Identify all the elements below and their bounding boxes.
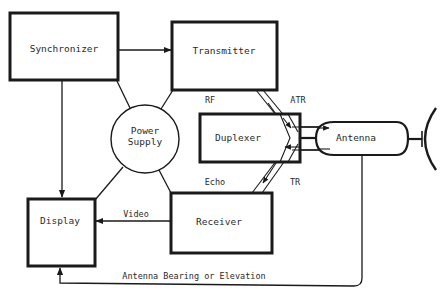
video-label: Video [123, 209, 149, 219]
antenna-bearing-label: Antenna Bearing or Elevation [122, 271, 265, 281]
power-to-transmitter-line [161, 90, 173, 109]
transmitter-block [172, 22, 277, 90]
antenna-label: Antenna [336, 132, 376, 143]
duplexer-label: Duplexer [215, 132, 261, 143]
echo-label: Echo [205, 177, 225, 187]
power-to-display-line [95, 167, 123, 200]
transmitter-label: Transmitter [193, 45, 256, 56]
tr-label: TR [290, 177, 301, 187]
display-block [28, 199, 95, 266]
power-supply-label-line2: Supply [128, 136, 163, 147]
receiver-label: Receiver [196, 216, 242, 227]
dish-reflector-icon [425, 108, 436, 170]
synchronizer-label: Synchronizer [30, 43, 99, 54]
radar-block-diagram: Synchronizer Transmitter Power Supply Du… [0, 0, 448, 300]
atr-label: ATR [290, 95, 306, 105]
power-to-sync-line [116, 79, 130, 108]
power-to-receiver-line [159, 170, 171, 193]
power-supply-label-line1: Power [131, 125, 160, 136]
rf-label: RF [205, 95, 215, 105]
display-label: Display [40, 215, 80, 226]
